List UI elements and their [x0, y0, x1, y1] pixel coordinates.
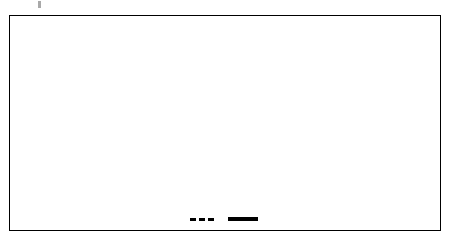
- plot-area: [66, 24, 390, 172]
- chart-canvas: [66, 24, 390, 172]
- chart-figure: [9, 15, 441, 231]
- x-axis-ticklabels: [66, 168, 390, 208]
- right-axis-ticklabels: [394, 16, 424, 230]
- solid-line-swatch-icon: [228, 217, 258, 220]
- legend-item-banking-structure[interactable]: [228, 217, 261, 220]
- left-axis-ticklabels: [32, 16, 62, 230]
- artifact-mark: [38, 1, 41, 8]
- legend-item-be[interactable]: [190, 218, 219, 221]
- chart-legend: [10, 212, 440, 226]
- dashed-line-swatch-icon: [190, 218, 216, 221]
- chart-screenshot: [0, 0, 456, 251]
